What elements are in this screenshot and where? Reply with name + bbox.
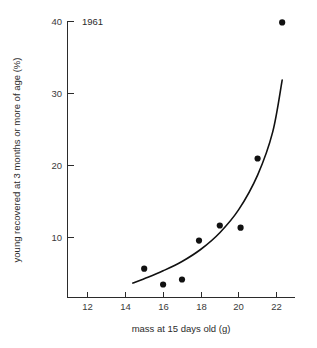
data-point	[237, 225, 243, 231]
y-axis-tick-labels: 40 30 20 10	[51, 16, 62, 243]
x-tick-label-12: 12	[82, 301, 93, 312]
data-point	[279, 19, 285, 25]
data-point	[196, 238, 202, 244]
x-axis-title: mass at 15 days old (g)	[132, 323, 231, 334]
y-tick-label-20: 20	[51, 160, 62, 171]
plot-canvas: 40 30 20 10 12 14 16 18 20 22 mass at 15…	[0, 0, 317, 348]
fit-curve	[133, 80, 282, 283]
x-axis-ticks	[88, 292, 277, 298]
y-axis-ticks	[68, 21, 74, 237]
y-axis-title: young recovered at 3 months or more of a…	[11, 58, 22, 263]
data-points-group	[141, 19, 285, 287]
x-tick-label-16: 16	[158, 301, 169, 312]
x-tick-label-14: 14	[120, 301, 131, 312]
data-point	[217, 222, 223, 228]
data-point	[179, 276, 185, 282]
y-tick-label-30: 30	[51, 88, 62, 99]
x-axis-tick-labels: 12 14 16 18 20 22	[82, 301, 282, 312]
scatter-plot-figure: 40 30 20 10 12 14 16 18 20 22 mass at 15…	[0, 0, 317, 348]
data-point	[141, 266, 147, 272]
x-tick-label-20: 20	[233, 301, 244, 312]
data-point	[255, 155, 261, 161]
y-tick-label-40: 40	[51, 16, 62, 27]
x-tick-label-18: 18	[196, 301, 207, 312]
year-annotation: 1961	[82, 16, 103, 27]
x-tick-label-22: 22	[271, 301, 282, 312]
y-tick-label-10: 10	[51, 232, 62, 243]
data-point	[160, 281, 166, 287]
